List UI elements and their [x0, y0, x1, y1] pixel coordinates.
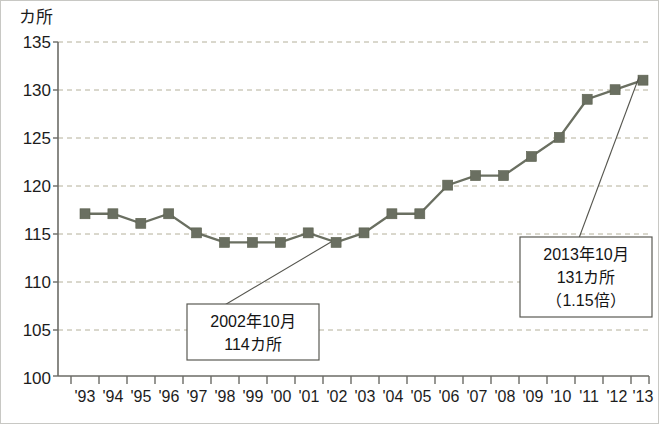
x-tick-label-98: '98	[215, 388, 236, 405]
x-tick-label-94: '94	[103, 388, 124, 405]
data-point-09	[526, 152, 536, 162]
data-point-97	[192, 228, 202, 238]
y-tick-label-120: 120	[23, 177, 51, 196]
y-axis-unit-label: カ所	[19, 8, 53, 27]
annotation-2002-line-2: 114カ所	[224, 336, 282, 353]
series-markers	[80, 75, 648, 247]
data-point-95	[136, 218, 146, 228]
data-series-locations	[80, 75, 648, 247]
x-tick-label-95: '95	[131, 388, 152, 405]
x-tick-label-97: '97	[187, 388, 208, 405]
y-tick-label-125: 125	[23, 129, 51, 148]
data-point-96	[164, 209, 174, 219]
data-point-98	[220, 237, 230, 247]
y-tick-label-100: 100	[23, 369, 51, 388]
data-point-13	[638, 75, 648, 85]
x-tick-label-00: '00	[271, 388, 292, 405]
y-tick-label-135: 135	[23, 33, 51, 52]
chart-container: カ所 135 130 125 120 115 110 105 100	[0, 0, 659, 424]
x-axis-ticks	[71, 376, 649, 384]
x-tick-label-11: '11	[579, 388, 599, 405]
x-tick-label-02: '02	[327, 388, 348, 405]
x-tick-label-09: '09	[523, 388, 544, 405]
y-tick-label-115: 115	[24, 225, 51, 244]
data-point-01	[303, 228, 313, 238]
x-axis-tick-labels: '93 '94 '95 '96 '97 '98 '99 '00 '01 '02 …	[75, 388, 654, 405]
x-tick-label-10: '10	[551, 388, 572, 405]
x-tick-label-13: '13	[633, 388, 654, 405]
x-tick-label-96: '96	[159, 388, 180, 405]
data-point-02	[331, 237, 341, 247]
data-point-12	[610, 85, 620, 95]
annotation-2002-line-1: 2002年10月	[210, 313, 295, 330]
x-tick-label-08: '08	[495, 388, 516, 405]
line-chart: カ所 135 130 125 120 115 110 105 100	[1, 1, 659, 424]
y-axis-tick-labels: 135 130 125 120 115 110 105 100	[23, 33, 51, 388]
data-point-07	[471, 171, 481, 181]
data-point-04	[387, 209, 397, 219]
x-tick-label-06: '06	[439, 388, 460, 405]
data-point-10	[554, 132, 564, 142]
annotation-2013-line-3: （1.15倍）	[546, 292, 625, 309]
data-point-99	[247, 237, 257, 247]
data-point-05	[415, 209, 425, 219]
x-tick-label-05: '05	[411, 388, 432, 405]
annotation-2013-line-1: 2013年10月	[543, 246, 628, 263]
y-tick-label-130: 130	[23, 81, 51, 100]
x-tick-label-12: '12	[607, 388, 628, 405]
x-tick-label-07: '07	[467, 388, 488, 405]
data-point-06	[443, 180, 453, 190]
annotation-2002-leader-line	[223, 242, 331, 306]
x-tick-label-93: '93	[75, 388, 96, 405]
x-tick-label-99: '99	[243, 388, 264, 405]
annotation-2013-line-2: 131カ所	[557, 269, 616, 286]
data-point-94	[108, 209, 118, 219]
x-tick-label-01: '01	[299, 388, 320, 405]
data-point-03	[359, 228, 369, 238]
data-point-00	[275, 237, 285, 247]
annotation-2013: 2013年10月 131カ所 （1.15倍）	[520, 77, 652, 317]
x-tick-label-03: '03	[355, 388, 376, 405]
data-point-08	[499, 171, 509, 181]
y-tick-label-110: 110	[24, 273, 51, 292]
data-point-93	[80, 209, 90, 219]
annotation-2002: 2002年10月 114カ所	[187, 242, 331, 360]
y-tick-label-105: 105	[23, 321, 51, 340]
data-point-11	[582, 94, 592, 104]
x-tick-label-04: '04	[383, 388, 404, 405]
